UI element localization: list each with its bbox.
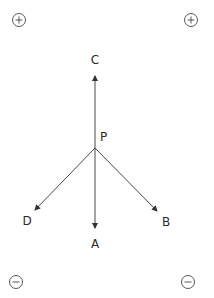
- negative-charge-bottom-left-icon: [10, 276, 23, 289]
- positive-charge-top-left-icon: [13, 14, 26, 27]
- label-b: B: [162, 215, 170, 229]
- negative-charge-bottom-right-icon: [182, 276, 195, 289]
- vector-arrow-b: [95, 148, 157, 211]
- vector-diagram: C P D A B: [0, 0, 214, 298]
- label-c: C: [91, 53, 99, 67]
- positive-charge-top-right-icon: [185, 14, 198, 27]
- label-a: A: [91, 237, 100, 251]
- label-d: D: [22, 214, 31, 228]
- vector-arrow-d: [35, 148, 95, 210]
- label-p: P: [100, 130, 107, 144]
